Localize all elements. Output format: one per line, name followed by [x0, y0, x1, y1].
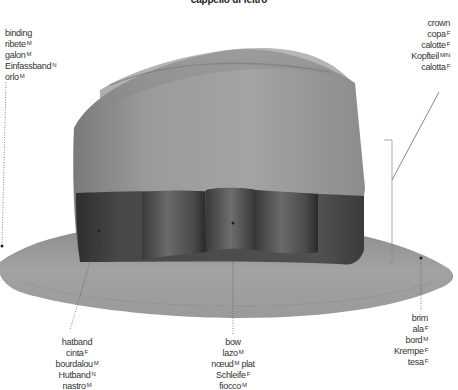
label-hatband: hatband cintaF bourdalouM HutbandN nastr…	[42, 337, 112, 390]
term: nœudM plat	[195, 359, 271, 370]
term: copaF	[411, 29, 450, 40]
term: alaF	[394, 324, 428, 335]
term: hatband	[42, 337, 112, 348]
term: brim	[394, 313, 428, 324]
label-brim: brim alaF bordM KrempeF tesaF	[394, 313, 428, 368]
bow-left-loop	[142, 191, 206, 260]
term: EinfassbandN	[5, 61, 56, 72]
bow-knot	[206, 188, 256, 252]
term: bordM	[394, 335, 428, 346]
term: SchleifeF	[195, 370, 271, 381]
term: ribeteM	[5, 39, 56, 50]
term: bourdalouM	[42, 359, 112, 370]
term: nastroM	[42, 381, 112, 390]
label-crown: crown copaF calotteF KopfteilM/N calotta…	[411, 18, 450, 73]
term: calotteF	[411, 40, 450, 51]
term: KrempeF	[394, 346, 428, 357]
term: calottaF	[411, 62, 450, 73]
term: galonM	[5, 50, 56, 61]
term: KopfteilM/N	[411, 51, 450, 62]
term: crown	[411, 18, 450, 29]
label-bow: bow lazoM nœudM plat SchleifeF fioccoM	[195, 337, 271, 390]
term: binding	[5, 28, 56, 39]
term: bow	[195, 337, 271, 348]
term: orloM	[5, 72, 56, 83]
label-binding: binding ribeteM galonM EinfassbandN orlo…	[5, 28, 56, 83]
term: tesaF	[394, 357, 428, 368]
term: lazoM	[195, 348, 271, 359]
term: cintaF	[42, 348, 112, 359]
felt-hat-illustration	[0, 0, 458, 390]
bow-right-loop	[256, 190, 318, 253]
term: fioccoM	[195, 381, 271, 390]
term: HutbandN	[42, 370, 112, 381]
